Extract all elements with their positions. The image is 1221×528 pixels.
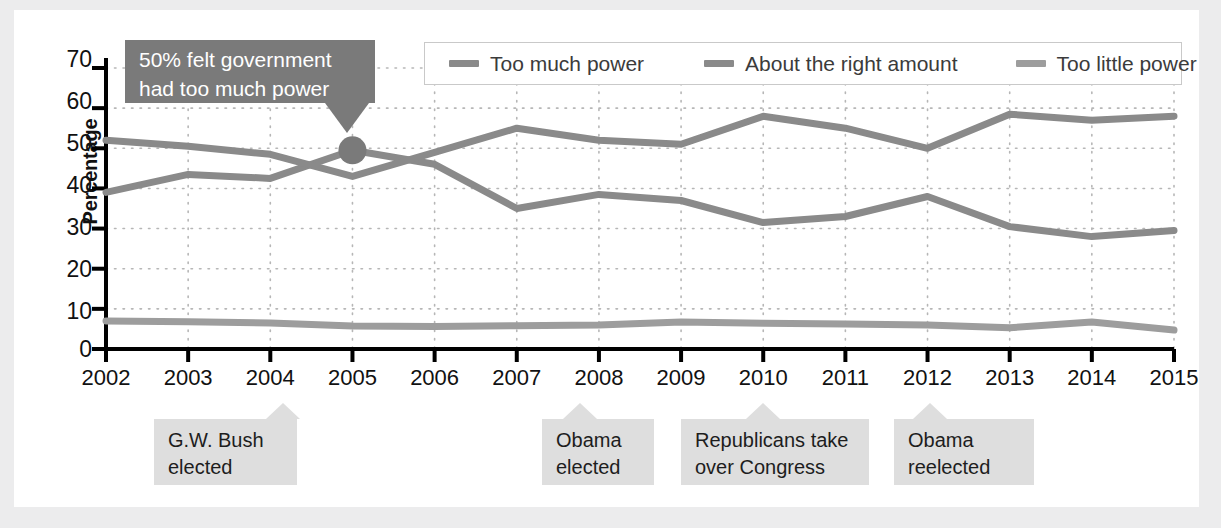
legend-swatch-icon (1016, 60, 1046, 67)
x-tick-label-2015: 2015 (1134, 365, 1214, 391)
callout-obama-reelected: Obama reelected (894, 419, 1034, 485)
legend-item-too-little-power[interactable]: Too little power (1016, 52, 1197, 76)
legend-label: Too much power (490, 52, 644, 76)
series-line-0 (106, 150, 1174, 236)
callout-line-2: elected (168, 454, 283, 481)
callout-line-1: Obama (908, 427, 1020, 454)
x-tick-label-2014: 2014 (1052, 365, 1132, 391)
callout-gw-bush-elected: G.W. Bush elected (154, 419, 297, 485)
annotation-marker (338, 136, 366, 164)
x-tick-label-2005: 2005 (312, 365, 392, 391)
callout-republicans-take-over-congress: Republicans take over Congress (681, 419, 869, 485)
annotation-bubble-line-1: 50% felt government (139, 45, 375, 74)
legend-label: About the right amount (745, 52, 957, 76)
callout-notch-icon (266, 403, 300, 419)
series-line-2 (106, 321, 1174, 330)
x-tick-label-2006: 2006 (395, 365, 475, 391)
x-tick-label-2011: 2011 (805, 365, 885, 391)
x-tick-label-2008: 2008 (559, 365, 639, 391)
legend-item-about-the-right-amount[interactable]: About the right amount (704, 52, 957, 76)
callout-notch-icon (913, 403, 947, 419)
callout-line-1: Obama (556, 427, 640, 454)
x-tick-label-2004: 2004 (230, 365, 310, 391)
series-lines (106, 114, 1174, 330)
annotation-bubble-tail-icon (325, 103, 369, 133)
chart-card: Percentage 70 60 50 40 30 20 10 0 (14, 10, 1199, 507)
x-tick-label-2012: 2012 (888, 365, 968, 391)
series-line-1 (106, 114, 1174, 176)
legend-swatch-icon (449, 60, 479, 67)
chart-plot-area: Percentage 70 60 50 40 30 20 10 0 (14, 10, 1199, 507)
legend-swatch-icon (704, 60, 734, 67)
callout-line-1: G.W. Bush (168, 427, 283, 454)
legend-item-too-much-power[interactable]: Too much power (449, 52, 644, 76)
x-tick-label-2002: 2002 (66, 365, 146, 391)
y-axis-ticks (92, 68, 106, 349)
callout-notch-icon (746, 403, 780, 419)
x-tick-label-2007: 2007 (477, 365, 557, 391)
annotation-marker-dot (338, 136, 366, 164)
x-tick-label-2013: 2013 (970, 365, 1050, 391)
callout-line-1: Republicans take (695, 427, 855, 454)
callout-obama-elected: Obama elected (542, 419, 654, 485)
callout-line-2: reelected (908, 454, 1020, 481)
annotation-bubble-line-2: had too much power (139, 74, 375, 103)
gridlines (106, 68, 1174, 309)
chart-legend: Too much power About the right amount To… (424, 42, 1182, 85)
callout-line-2: elected (556, 454, 640, 481)
callout-line-2: over Congress (695, 454, 855, 481)
x-tick-label-2010: 2010 (723, 365, 803, 391)
x-tick-label-2009: 2009 (641, 365, 721, 391)
callout-notch-icon (563, 403, 597, 419)
x-tick-label-2003: 2003 (148, 365, 228, 391)
legend-label: Too little power (1057, 52, 1197, 76)
annotation-bubble: 50% felt government had too much power (125, 40, 375, 103)
page-background: Percentage 70 60 50 40 30 20 10 0 (0, 0, 1221, 528)
